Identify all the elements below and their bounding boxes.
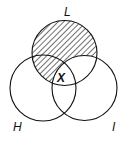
label-x-region: X: [56, 71, 66, 85]
label-h: H: [13, 120, 22, 134]
label-l: L: [64, 5, 71, 19]
venn-diagram: L H I X: [0, 0, 130, 141]
label-i: I: [112, 120, 116, 134]
